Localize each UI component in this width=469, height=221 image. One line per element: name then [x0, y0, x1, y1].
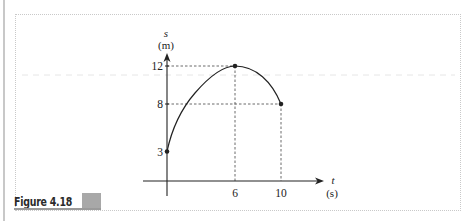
x-tick-label-6: 6	[232, 187, 238, 199]
caption-swatch	[82, 193, 101, 209]
displacement-time-chart: s (m) t (s) 12 8 3 6 10	[0, 0, 469, 221]
y-tick-label-3: 3	[157, 146, 163, 158]
y-axis-label: s	[164, 27, 168, 39]
axes	[143, 58, 318, 196]
displacement-curve	[167, 66, 281, 152]
y-tick-label-12: 12	[152, 60, 164, 72]
point-t0-s3	[165, 149, 170, 154]
x-axis-label: t	[331, 174, 335, 186]
y-axis-unit: (m)	[158, 39, 174, 52]
x-axis-unit: (s)	[326, 187, 338, 200]
point-t6-s12	[233, 64, 238, 69]
y-tick-label-8: 8	[157, 98, 163, 110]
reference-lines	[167, 66, 281, 181]
x-tick-label-10: 10	[275, 187, 287, 199]
caption-underline	[14, 208, 101, 210]
point-t10-s8	[279, 102, 284, 107]
figure-caption: Figure 4.18	[14, 193, 82, 209]
